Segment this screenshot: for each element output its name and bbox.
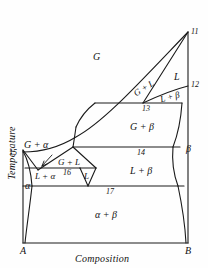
solvus-beta-mid	[173, 147, 178, 186]
region-label-liquid-upper: L	[174, 72, 180, 82]
region-label-beta: β	[186, 144, 191, 154]
axis-label-a: A	[20, 246, 26, 256]
region-label-gas-plus-beta: G + β	[130, 122, 154, 132]
axis-title-x: Composition	[75, 254, 129, 264]
solvus-beta-upper	[173, 103, 182, 147]
boundary-alpha-liquidus	[23, 150, 38, 170]
axis-label-b: B	[185, 246, 191, 256]
point-label-14: 14	[137, 149, 145, 157]
solvus-alpha-lower	[25, 186, 32, 243]
point-label-11: 11	[191, 28, 198, 36]
point-label-13: 13	[142, 105, 150, 113]
solvus-beta-lower	[178, 186, 186, 243]
phase-diagram-figure: G G + L L L + β G + β β L + β G + α G + …	[0, 0, 208, 268]
axis-title-y: Temperature	[7, 118, 17, 188]
boundary-liquid-small-left	[88, 168, 96, 186]
point-label-16: 16	[63, 169, 71, 177]
region-label-gas-plus-alpha: G + α	[24, 140, 48, 150]
region-label-gas-plus-liquid-lower: G + L	[58, 158, 80, 167]
region-label-alpha: α	[25, 181, 30, 191]
region-label-alpha-plus-beta: α + β	[95, 210, 117, 220]
boundary-gas-liquid-upper	[23, 32, 188, 152]
phase-diagram-canvas	[0, 0, 208, 268]
point-label-17: 17	[106, 188, 114, 196]
region-label-liquid-lower: L	[84, 172, 89, 181]
boundary-gas-beta-left-upper	[76, 103, 95, 127]
region-label-liquid-plus-alpha: L + α	[35, 172, 55, 181]
region-label-gas: G	[93, 52, 100, 62]
point-label-12: 12	[191, 81, 199, 89]
region-label-liquid-plus-beta-lower: L + β	[130, 166, 152, 176]
